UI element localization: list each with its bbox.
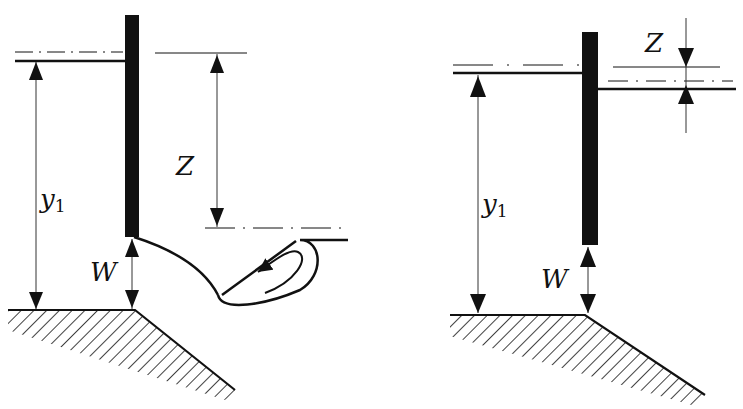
w-arrow-up-icon: [125, 239, 139, 257]
w-arrow-down-icon: [125, 290, 139, 308]
y1-label: y1: [481, 189, 508, 221]
y1-arrow-up-icon: [470, 76, 486, 97]
w-arrow-up-icon: [580, 247, 596, 267]
bed-hatch: [8, 311, 237, 400]
roller-circulation-arrow-icon: [258, 251, 302, 293]
z-arrow-down-icon: [678, 48, 694, 67]
z-label: Z: [644, 28, 664, 58]
sluice-gate-diagram: y1 W Z Z: [0, 0, 743, 409]
y1-label: y1: [39, 184, 66, 216]
panel-free-flow: y1 W Z: [8, 15, 348, 400]
y1-arrow-down-icon: [29, 292, 43, 309]
z-arrow-down-icon: [210, 208, 224, 226]
y1-arrow-up-icon: [29, 62, 43, 80]
z-label: Z: [175, 151, 195, 181]
jet-profile: [134, 237, 218, 295]
z-arrow-up-icon: [210, 55, 224, 73]
bed-hatch: [450, 316, 707, 406]
panel-submerged-flow: Z y1 W: [450, 18, 736, 406]
y1-arrow-down-icon: [470, 294, 486, 313]
sluice-gate: [125, 15, 139, 237]
w-arrow-down-icon: [580, 294, 596, 313]
jump-front: [222, 241, 296, 295]
w-label: W: [541, 264, 570, 294]
sluice-gate: [582, 32, 598, 245]
w-label: W: [90, 257, 119, 287]
